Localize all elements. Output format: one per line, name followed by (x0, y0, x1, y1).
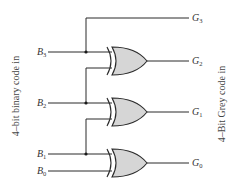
junction-b2 (84, 101, 87, 104)
junction-b3 (84, 50, 87, 53)
junction-b1 (84, 152, 87, 155)
label-b1: B1 (37, 148, 46, 160)
input-b0: B0 (37, 165, 112, 177)
right-label: 4–Bit Grey code in (216, 66, 227, 142)
label-b3: B3 (37, 46, 46, 58)
input-b2: B2 (37, 97, 112, 109)
input-b1: B1 (37, 148, 112, 160)
input-b3: B3 (37, 46, 112, 58)
label-g1: G1 (192, 106, 202, 118)
xor-gate-g0 (107, 149, 189, 177)
label-b0: B0 (37, 165, 46, 177)
label-g3: G3 (192, 12, 202, 24)
xor-gate-g2 (107, 47, 189, 75)
left-label: 4–bit binary code in (10, 56, 21, 136)
wire-b3-g3 (86, 18, 189, 52)
binary-to-grey-circuit: 4–bit binary code in 4–Bit Grey code in … (0, 0, 237, 187)
label-g0: G0 (192, 157, 202, 169)
label-g2: G2 (192, 55, 202, 67)
xor-gate-g1 (107, 98, 189, 126)
label-b2: B2 (37, 97, 46, 109)
